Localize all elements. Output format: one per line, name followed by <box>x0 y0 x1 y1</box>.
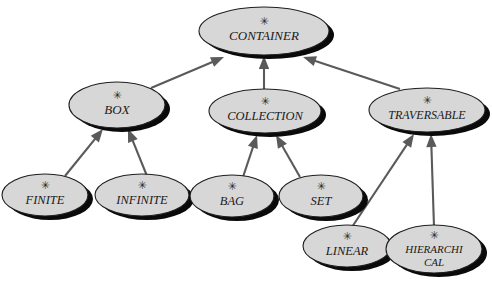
node-label: TRAVERSABLE <box>388 108 466 122</box>
node-label-line: HIERARCHI <box>404 243 464 255</box>
node-label: BOX <box>104 102 130 117</box>
edge-line <box>132 139 147 176</box>
edge-arrowhead <box>402 134 414 148</box>
node-traversable[interactable]: ✳TRAVERSABLE <box>369 88 490 136</box>
node-label: INFINITE <box>115 193 168 207</box>
node-box[interactable]: ✳BOX <box>69 82 170 132</box>
nodes-layer: ✳CONTAINER✳BOX✳COLLECTION✳TRAVERSABLE✳FI… <box>2 7 490 277</box>
stereotype-asterisk-icon: ✳ <box>137 179 146 192</box>
stereotype-asterisk-icon: ✳ <box>260 95 269 108</box>
edge-finite-box <box>65 129 103 176</box>
diagram-canvas: ✳CONTAINER✳BOX✳COLLECTION✳TRAVERSABLE✳FI… <box>0 0 492 282</box>
node-linear[interactable]: ✳LINEAR <box>303 225 396 271</box>
edge-arrowhead <box>248 135 258 149</box>
stereotype-asterisk-icon: ✳ <box>40 179 49 192</box>
edge-collection-container <box>259 56 269 89</box>
edge-line <box>65 137 96 176</box>
edge-arrowhead <box>276 135 287 149</box>
node-collection[interactable]: ✳COLLECTION <box>209 89 326 137</box>
stereotype-asterisk-icon: ✳ <box>429 229 438 242</box>
edge-line <box>352 143 408 227</box>
edge-arrowhead <box>303 56 317 66</box>
node-label: FINITE <box>25 193 65 207</box>
edge-line <box>431 145 434 227</box>
node-set[interactable]: ✳SET <box>279 175 368 221</box>
node-label-line: CAL <box>424 256 444 268</box>
edge-infinite-box <box>128 129 147 176</box>
node-label: CONTAINER <box>229 28 299 43</box>
node-bag[interactable]: ✳BAG <box>190 175 279 221</box>
node-label: SET <box>311 194 333 208</box>
node-label: COLLECTION <box>227 109 303 123</box>
edge-linear-traversable <box>352 134 414 227</box>
node-container[interactable]: ✳CONTAINER <box>199 7 334 59</box>
node-infinite[interactable]: ✳INFINITE <box>95 174 194 220</box>
node-hierarchical[interactable]: ✳HIERARCHICAL <box>386 225 487 277</box>
stereotype-asterisk-icon: ✳ <box>422 94 431 107</box>
edge-hierarchical-traversable <box>426 134 436 227</box>
edge-box-container <box>151 57 224 88</box>
stereotype-asterisk-icon: ✳ <box>316 180 325 193</box>
node-label: LINEAR <box>325 244 369 258</box>
stereotype-asterisk-icon: ✳ <box>342 230 351 243</box>
edge-line <box>243 145 254 177</box>
edge-set-collection <box>276 135 300 177</box>
edge-bag-collection <box>243 135 258 177</box>
edge-arrowhead <box>210 57 224 67</box>
edge-line <box>281 144 300 177</box>
stereotype-asterisk-icon: ✳ <box>259 15 268 28</box>
edge-line <box>151 61 214 88</box>
node-finite[interactable]: ✳FINITE <box>2 174 93 220</box>
node-label: BAG <box>220 194 244 208</box>
edge-traversable-container <box>303 56 400 89</box>
stereotype-asterisk-icon: ✳ <box>112 89 121 102</box>
edge-line <box>313 60 400 89</box>
class-hierarchy-diagram: ✳CONTAINER✳BOX✳COLLECTION✳TRAVERSABLE✳FI… <box>0 0 492 282</box>
stereotype-asterisk-icon: ✳ <box>227 180 236 193</box>
